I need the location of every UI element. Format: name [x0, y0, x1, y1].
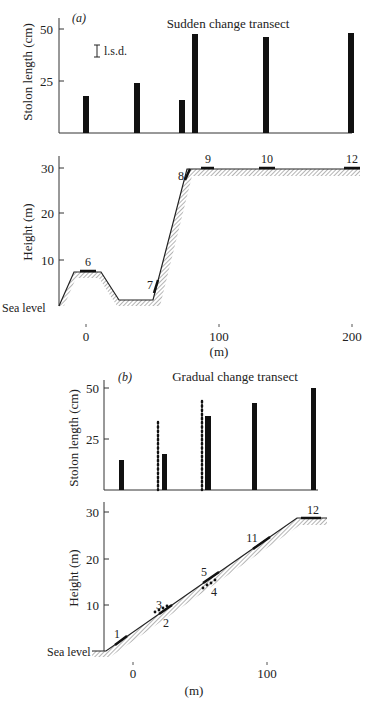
tick-label-20: 20	[86, 552, 99, 567]
tick-label-50: 50	[86, 381, 99, 396]
bar	[263, 37, 269, 133]
x-tick-label-0: 0	[130, 666, 137, 681]
bar	[252, 403, 257, 490]
site-label-8: 8	[178, 169, 184, 183]
site-label-12: 12	[346, 152, 358, 166]
site-label-9: 9	[205, 152, 211, 166]
sea-level-label: Sea level	[2, 301, 46, 315]
panel-b-height-chart: 30 20 10 Height (m) Sea level 1 2 3 4 5 …	[47, 502, 327, 698]
lsd-errorbar-icon	[94, 45, 100, 57]
site-label-12: 12	[307, 503, 319, 517]
x-tick-label-100: 100	[209, 329, 229, 344]
site-label-3: 3	[156, 598, 162, 612]
ground-hatching	[59, 169, 360, 306]
lsd-label: l.s.d.	[104, 44, 127, 58]
site-label-7: 7	[147, 278, 153, 292]
chart-title: Gradual change transect	[172, 369, 298, 384]
tick-label-10: 10	[86, 598, 99, 613]
site-label-4: 4	[211, 585, 217, 599]
y-axis-label: Stolon length (cm)	[20, 23, 35, 121]
y-axis-label: Height (m)	[66, 549, 81, 606]
tick-label-20: 20	[41, 206, 54, 221]
panel-a-stolon-chart: 50 25 Stolon length (cm) (a) Sudden chan…	[20, 11, 354, 133]
site-label-11: 11	[246, 531, 258, 545]
y-axis-label: Stolon length (cm)	[66, 389, 81, 487]
bar	[83, 96, 89, 133]
bar	[311, 388, 316, 490]
tick-label-50: 50	[40, 22, 53, 37]
site-label-1: 1	[114, 627, 120, 641]
tick-label-30: 30	[41, 161, 54, 176]
panel-a-height-chart: 30 20 10 Height (m) Sea level 6 7 8 9 10…	[2, 152, 362, 359]
site-label-5: 5	[201, 565, 207, 579]
x-axis-label: (m)	[185, 683, 204, 698]
bar	[134, 83, 140, 133]
site-label-10: 10	[261, 152, 273, 166]
x-tick-label-200: 200	[342, 329, 362, 344]
tick-label-30: 30	[86, 505, 99, 520]
tick-label-25: 25	[86, 432, 99, 447]
tick-label-10: 10	[41, 253, 54, 268]
y-axis-label: Height (m)	[20, 203, 35, 260]
x-axis-label: (m)	[210, 344, 229, 359]
bar	[192, 34, 198, 133]
chart-title: Sudden change transect	[167, 16, 290, 31]
sea-level-label: Sea level	[47, 645, 91, 659]
bar	[348, 33, 354, 133]
panel-label: (b)	[118, 370, 132, 384]
x-tick-label-100: 100	[257, 666, 277, 681]
bar	[205, 416, 211, 490]
bar	[119, 460, 124, 490]
x-tick-label-0: 0	[83, 329, 90, 344]
bar	[179, 100, 185, 133]
figure: 50 25 Stolon length (cm) (a) Sudden chan…	[0, 0, 377, 705]
bar	[162, 454, 167, 490]
site-label-2: 2	[163, 616, 169, 630]
panel-b-stolon-chart: 50 25 Stolon length (cm) (b) Gradual cha…	[66, 369, 318, 490]
site-label-6: 6	[85, 255, 91, 269]
tick-label-25: 25	[40, 74, 53, 89]
panel-label: (a)	[72, 11, 86, 25]
